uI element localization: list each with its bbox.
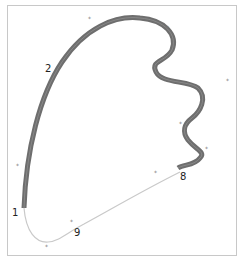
control-points: * * * * * * * * * * [16,15,229,250]
curve-label-1: 1 [12,207,18,218]
control-point-marker: * [205,145,208,152]
bezier-curve-figure: * * * * * * * * * * 1 2 8 9 [0,0,243,263]
thick-curve-segment [24,18,203,208]
curve-label-8: 8 [180,171,186,182]
control-point-marker: * [154,169,157,176]
figure-frame [8,6,237,256]
control-point-marker: * [166,24,169,31]
curve-label-2: 2 [45,63,51,74]
curve-label-9: 9 [74,227,80,238]
control-point-marker: * [88,15,91,22]
control-point-marker: * [179,120,182,127]
control-point-marker: * [226,77,229,84]
thick-curve-highlight [24,18,203,208]
control-point-marker: * [45,243,48,250]
control-point-marker: * [70,218,73,225]
thin-curve-segment [24,172,180,242]
control-point-marker: * [153,63,156,70]
control-point-marker: * [16,162,19,169]
